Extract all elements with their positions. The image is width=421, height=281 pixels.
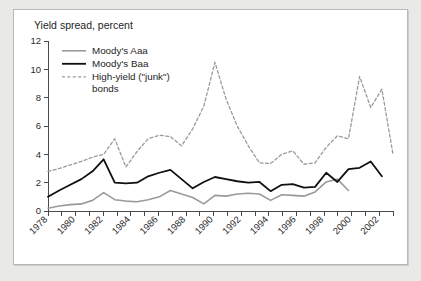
figure-container: Yield spread, percent 024681012 19781980… (0, 0, 421, 281)
y-tick-label: 10 (30, 64, 41, 75)
legend-label-2: High-yield ("junk") (92, 71, 170, 82)
x-tick-label: 2000 (330, 214, 353, 237)
y-tick-label: 6 (36, 120, 41, 131)
y-tick-label: 8 (36, 92, 41, 103)
x-tick-label: 1986 (137, 214, 160, 237)
x-tick-label: 1988 (165, 214, 188, 237)
x-axis: 1978198019821984198619881990199219941996… (27, 211, 393, 236)
series-line-moodys-aaa (48, 179, 348, 208)
series-line-moodys-baa (48, 159, 382, 197)
x-tick-label: 1992 (220, 214, 243, 237)
y-tick-label: 4 (36, 149, 41, 160)
y-tick-label: 12 (30, 35, 41, 46)
legend-label-2-line2: bonds (92, 83, 119, 94)
x-tick-label: 2002 (358, 214, 381, 237)
yield-spread-line-chart: Yield spread, percent 024681012 19781980… (14, 10, 407, 264)
legend-label-0: Moody's Aaa (92, 45, 148, 56)
y-tick-label: 2 (36, 177, 41, 188)
x-tick-label: 1994 (247, 214, 270, 237)
legend-label-1: Moody's Baa (92, 58, 149, 69)
x-tick-label: 1984 (109, 214, 132, 237)
x-tick-label: 1990 (192, 214, 215, 237)
y-axis: 024681012 (30, 35, 48, 216)
chart-title: Yield spread, percent (34, 19, 133, 31)
x-tick-label: 1978 (27, 214, 50, 237)
chart-panel: Yield spread, percent 024681012 19781980… (13, 9, 408, 265)
chart-legend: Moody's AaaMoody's BaaHigh-yield ("junk"… (62, 45, 170, 94)
x-tick-label: 1998 (303, 214, 326, 237)
x-tick-label: 1982 (82, 214, 105, 237)
x-tick-label: 1996 (275, 214, 298, 237)
x-tick-label: 1980 (54, 214, 77, 237)
